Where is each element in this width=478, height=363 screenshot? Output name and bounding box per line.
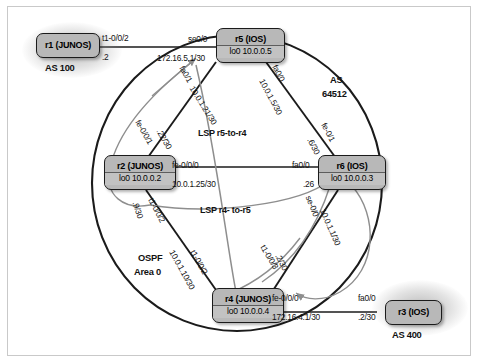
lsp-r5-to-r4-label: LSP r5-to-r4 bbox=[198, 128, 246, 138]
node-r6-loopback: lo0 10.0.0.3 bbox=[319, 172, 385, 185]
diagram-canvas: r1 (JUNOS) r5 (IOS) lo0 10.0.0.5 r2 (JUN… bbox=[0, 0, 478, 363]
label-r3-fa0-0: fa0/0 bbox=[358, 293, 375, 303]
node-r5-label: r5 (IOS) bbox=[230, 33, 271, 45]
as100-label: AS 100 bbox=[45, 63, 75, 73]
label-r4-172-16-4-1: 172.16.4.1/30 bbox=[272, 312, 320, 322]
node-r3[interactable]: r3 (IOS) bbox=[385, 300, 442, 325]
label-r4-fe-0-0-0: fe-0/0/0 bbox=[272, 293, 298, 303]
node-r2[interactable]: r2 (JUNOS) lo0 10.0.0.2 bbox=[104, 155, 176, 190]
node-r5-loopback: lo0 10.0.0.5 bbox=[217, 45, 284, 58]
node-r3-label: r3 (IOS) bbox=[398, 308, 429, 317]
node-r4-label: r4 (JUNOS) bbox=[220, 293, 276, 305]
label-r6-fa0-0: fa0/0 bbox=[292, 160, 309, 170]
ospf-area-label-line2: Area 0 bbox=[134, 267, 161, 277]
lsp-r4-to-r5-label: LSP r4- to-r5 bbox=[200, 205, 251, 215]
label-r1-addr: .2 bbox=[102, 52, 109, 62]
as400-label: AS 400 bbox=[392, 330, 422, 340]
label-r2-fe-0-0-0: fe-0/0/0 bbox=[172, 160, 198, 170]
label-r2-10-0-1-25: 10.0.1.25/30 bbox=[172, 179, 216, 189]
label-r6-26: .26 bbox=[303, 179, 314, 189]
label-r5-se0-0: se0/0 bbox=[188, 34, 207, 44]
link-r6-r4 bbox=[272, 190, 338, 292]
node-r1-label: r1 (JUNOS) bbox=[45, 41, 91, 50]
node-r2-label: r2 (JUNOS) bbox=[112, 160, 168, 172]
node-r6-label: r6 (IOS) bbox=[332, 160, 373, 172]
node-r1[interactable]: r1 (JUNOS) bbox=[36, 33, 100, 58]
as-64512-label-line2: 64512 bbox=[322, 89, 347, 99]
as-64512-label-line1: AS bbox=[330, 75, 342, 85]
node-r6[interactable]: r6 (IOS) lo0 10.0.0.3 bbox=[318, 155, 386, 190]
label-r3-2-30: .2/30 bbox=[358, 312, 375, 322]
node-r5[interactable]: r5 (IOS) lo0 10.0.0.5 bbox=[216, 28, 285, 63]
label-r1-t1-0-0-2: t1-0/0/2 bbox=[102, 33, 128, 43]
label-r5-se0-0-addr: 172.16.5.1/30 bbox=[157, 53, 205, 63]
node-r2-loopback: lo0 10.0.0.2 bbox=[105, 172, 175, 185]
ospf-area-label-line1: OSPF bbox=[138, 253, 162, 263]
